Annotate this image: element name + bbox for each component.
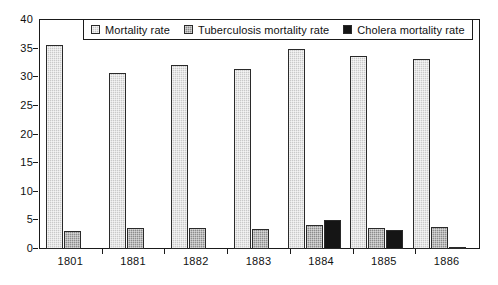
x-tick-mark: [290, 249, 291, 254]
y-tick-mark: [33, 248, 38, 249]
x-tick-label: 1884: [291, 255, 351, 267]
bar-tuberculosis-1885: [368, 228, 385, 249]
bar-mortality-1885: [350, 56, 367, 250]
bar-mortality-1881: [109, 73, 126, 249]
y-axis: 4035302520151050: [0, 19, 33, 249]
x-tick-label: 1801: [40, 255, 100, 267]
legend-label-mortality: Mortality rate: [105, 24, 170, 36]
legend-swatch-tuberculosis-icon: [184, 25, 193, 34]
legend-entry-cholera: Cholera mortality rate: [343, 24, 464, 36]
bar-tuberculosis-1882: [189, 228, 206, 249]
y-tick-mark: [33, 219, 38, 220]
bar-tuberculosis-1886: [431, 227, 448, 249]
legend-label-tuberculosis: Tuberculosis mortality rate: [198, 24, 329, 36]
y-tick-label: 20: [0, 129, 33, 140]
x-tick-mark: [415, 249, 416, 254]
bars-layer: [40, 20, 479, 249]
x-tick-label: 1885: [354, 255, 414, 267]
bar-tuberculosis-1884: [306, 225, 323, 249]
x-tick-label: 1886: [417, 255, 477, 267]
y-tick-mark: [33, 76, 38, 77]
legend-swatch-mortality-icon: [91, 25, 100, 34]
bar-mortality-1886: [413, 59, 430, 249]
x-tick-mark: [164, 249, 165, 254]
bar-chart: 4035302520151050 18011881188218831884188…: [0, 0, 498, 285]
bar-tuberculosis-1881: [127, 228, 144, 249]
bar-tuberculosis-1883: [252, 229, 269, 249]
y-tick-mark: [33, 134, 38, 135]
y-tick-mark: [33, 162, 38, 163]
x-tick-label: 1882: [166, 255, 226, 267]
y-tick-label: 0: [0, 243, 33, 254]
y-tick-label: 25: [0, 100, 33, 111]
bar-mortality-1882: [171, 65, 188, 249]
y-tick-label: 30: [0, 71, 33, 82]
y-tick-label: 40: [0, 14, 33, 25]
y-tick-label: 15: [0, 157, 33, 168]
bar-cholera-1885: [386, 230, 403, 249]
legend-entry-tuberculosis: Tuberculosis mortality rate: [184, 24, 329, 36]
y-tick-label: 35: [0, 43, 33, 54]
bar-mortality-1801: [46, 45, 63, 249]
x-axis: 1801188118821883188418851886: [39, 255, 480, 275]
x-tick-label: 1881: [103, 255, 163, 267]
bar-tuberculosis-1801: [64, 231, 81, 249]
y-tick-label: 5: [0, 214, 33, 225]
x-tick-label: 1883: [229, 255, 289, 267]
bar-mortality-1883: [234, 69, 251, 249]
legend-swatch-cholera-icon: [343, 25, 352, 34]
y-tick-label: 10: [0, 186, 33, 197]
legend-label-cholera: Cholera mortality rate: [357, 24, 464, 36]
y-tick-mark: [33, 105, 38, 106]
bar-cholera-1886: [449, 247, 466, 249]
legend-entry-mortality: Mortality rate: [91, 24, 170, 36]
x-tick-mark: [102, 249, 103, 254]
bar-mortality-1884: [288, 49, 305, 249]
x-tick-mark: [227, 249, 228, 254]
bar-cholera-1884: [324, 220, 341, 249]
y-tick-mark: [33, 191, 38, 192]
y-tick-mark: [33, 48, 38, 49]
x-tick-mark: [353, 249, 354, 254]
chart-legend: Mortality rate Tuberculosis mortality ra…: [83, 19, 473, 40]
